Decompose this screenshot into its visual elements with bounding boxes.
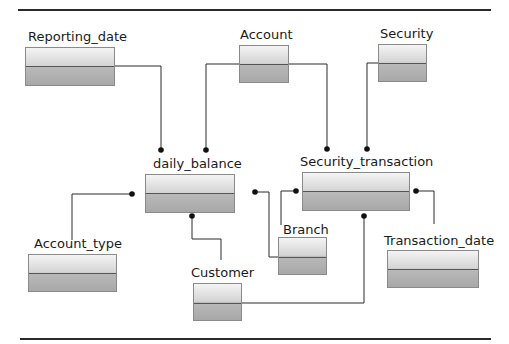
entity-divider [26,66,114,67]
entity-transaction-date[interactable] [387,250,479,288]
entity-divider [146,193,234,194]
entity-label-security: Security [380,26,433,41]
entity-divider [194,303,241,304]
entity-label-customer: Customer [191,265,254,280]
entity-account[interactable] [239,45,289,83]
entity-divider [279,257,326,258]
entity-divider [303,191,409,192]
entity-security-transaction[interactable] [302,172,410,211]
entity-account-type[interactable] [28,254,117,292]
entity-reporting-date[interactable] [25,47,115,86]
entity-security[interactable] [378,44,427,82]
entity-divider [240,64,288,65]
entity-label-account: Account [240,27,293,42]
entity-label-security-transaction: Security_transaction [300,154,433,169]
entity-label-daily-balance: daily_balance [153,156,242,171]
entity-label-reporting-date: Reporting_date [28,29,127,44]
entity-daily-balance[interactable] [145,174,235,213]
entity-label-transaction-date: Transaction_date [384,233,494,248]
entity-divider [388,269,478,270]
entity-customer[interactable] [193,283,242,321]
entity-label-account-type: Account_type [34,236,122,251]
entity-divider [29,273,116,274]
entity-divider [379,63,426,64]
entity-label-branch: Branch [283,222,329,237]
entity-branch[interactable] [278,237,327,275]
